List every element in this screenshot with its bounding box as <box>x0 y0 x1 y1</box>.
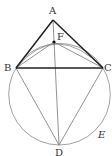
segment-fb <box>16 42 54 68</box>
geometry-diagram: A F B C D E <box>0 0 112 156</box>
label-a: A <box>48 5 57 16</box>
label-c: C <box>104 62 112 73</box>
label-e: E <box>97 129 106 140</box>
segment-cd <box>59 68 103 145</box>
label-f: F <box>57 31 64 42</box>
label-d: D <box>55 147 63 156</box>
segment-fc <box>54 42 103 68</box>
point-f-dot <box>52 40 55 43</box>
label-b: B <box>4 62 11 73</box>
segment-bd <box>16 68 59 145</box>
segment-ab <box>16 20 53 68</box>
